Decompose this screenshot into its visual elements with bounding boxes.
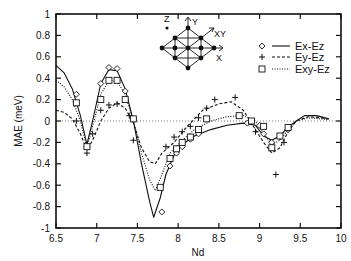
- x-tick-label: 8.5: [212, 233, 226, 244]
- y-tick-label: -0.6: [33, 180, 51, 191]
- plus-marker: [98, 107, 104, 113]
- y-tick-label: 0: [44, 116, 50, 127]
- x-tick-label: 10: [335, 233, 347, 244]
- x-tick-label: 9.5: [293, 233, 307, 244]
- series-line-ex-ez: [56, 65, 329, 217]
- legend-label: Exy-Ez: [295, 63, 330, 75]
- diamond-marker: [261, 131, 267, 137]
- x-tick-label: 8: [175, 233, 181, 244]
- series-curves: [56, 65, 329, 217]
- y-tick-label: 0.4: [36, 73, 50, 84]
- inset-label-z: Z: [164, 14, 170, 24]
- plus-marker: [232, 94, 238, 100]
- y-tick-label: -1: [41, 223, 50, 234]
- square-marker: [130, 116, 136, 122]
- y-tick-label: 0.6: [36, 51, 50, 62]
- plus-marker: [163, 144, 169, 150]
- square-marker: [277, 133, 283, 139]
- inset-label-xy: XY: [214, 29, 226, 39]
- square-marker: [84, 144, 90, 150]
- plus-marker: [73, 118, 79, 124]
- y-tick-label: -0.8: [33, 201, 51, 212]
- square-marker: [167, 155, 173, 161]
- square-marker-icon: [259, 66, 265, 72]
- square-marker: [98, 97, 104, 103]
- square-marker: [106, 77, 112, 83]
- plus-marker: [130, 137, 136, 143]
- square-marker: [248, 118, 254, 124]
- legend: Ex-Ez Ey-Ez Exy-Ez: [259, 40, 330, 75]
- legend-entry-exy-ez: Exy-Ez: [259, 63, 330, 75]
- square-marker: [114, 77, 120, 83]
- x-tick-label: 9: [257, 233, 263, 244]
- x-axis-label: Nd: [192, 247, 205, 258]
- y-tick-label: -0.2: [33, 137, 51, 148]
- plus-marker: [114, 101, 120, 107]
- mae-line-chart: 6.577.588.599.510-1-0.8-0.6-0.4-0.200.20…: [0, 0, 351, 261]
- y-tick-label: 0.8: [36, 30, 50, 41]
- plus-marker: [84, 150, 90, 156]
- square-marker: [157, 184, 163, 190]
- y-tick-label: 0.2: [36, 94, 50, 105]
- plus-marker: [204, 105, 210, 111]
- diamond-marker: [98, 81, 104, 87]
- plus-marker: [273, 172, 279, 178]
- square-marker: [261, 123, 267, 129]
- x-tick-label: 6.5: [49, 233, 63, 244]
- square-marker: [196, 127, 202, 133]
- square-marker: [204, 116, 210, 122]
- diamond-marker: [167, 163, 173, 169]
- square-marker: [73, 100, 79, 106]
- legend-entry-ey-ez: Ey-Ez: [259, 51, 324, 63]
- diamond-marker: [159, 209, 165, 215]
- inset-label-y: Y: [192, 17, 198, 27]
- square-marker: [122, 97, 128, 103]
- lattice-inset-diagram: Z Y XY X: [160, 14, 226, 70]
- plus-marker: [196, 115, 202, 121]
- plus-marker: [187, 123, 193, 129]
- x-tick-label: 7: [94, 233, 100, 244]
- diamond-marker-icon: [259, 43, 265, 49]
- square-marker: [187, 134, 193, 140]
- y-tick-label: -0.4: [33, 158, 51, 169]
- square-marker: [269, 145, 275, 151]
- legend-label: Ey-Ez: [295, 51, 324, 63]
- y-axis-label: MAE (meV): [13, 95, 24, 147]
- diamond-marker: [122, 88, 128, 94]
- square-marker: [174, 146, 180, 152]
- series-markers: [73, 65, 291, 215]
- plus-marker: [212, 97, 218, 103]
- square-marker: [179, 139, 185, 145]
- inset-label-x: X: [216, 53, 222, 63]
- y-tick-label: 1: [44, 9, 50, 20]
- square-marker: [236, 113, 242, 119]
- plus-marker-icon: [259, 54, 265, 60]
- square-marker: [285, 124, 291, 130]
- x-tick-label: 7.5: [130, 233, 144, 244]
- plus-marker: [253, 129, 259, 135]
